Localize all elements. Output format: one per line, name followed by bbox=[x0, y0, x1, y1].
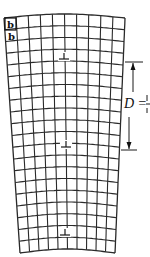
spacing-label: D = bbox=[123, 96, 147, 111]
burgers-label-2: b bbox=[8, 31, 15, 42]
lattice-column-line bbox=[4, 18, 20, 253]
burgers-vector-labels: b b bbox=[5, 18, 16, 42]
lattice-grid bbox=[4, 14, 125, 253]
arrow-up-icon bbox=[131, 63, 136, 70]
dislocation-symbol-icon bbox=[59, 228, 71, 237]
dislocation-symbol-icon bbox=[58, 52, 70, 61]
grain-boundary-diagram: b b D = bbox=[0, 0, 150, 257]
arrow-down-icon bbox=[127, 142, 132, 149]
dislocation-symbol-icon bbox=[60, 140, 72, 149]
spacing-dimension: D = bbox=[121, 62, 150, 150]
lattice-row-line bbox=[20, 249, 115, 253]
burgers-label-1: b bbox=[7, 19, 14, 30]
